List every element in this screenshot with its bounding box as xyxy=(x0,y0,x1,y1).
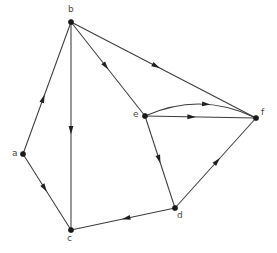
node-label-b: b xyxy=(68,5,74,14)
node-f[interactable] xyxy=(253,115,258,120)
edge-b-c-arrowhead xyxy=(69,126,74,134)
edge-e-f-curved-arrowhead xyxy=(202,102,211,107)
node-a[interactable] xyxy=(20,151,25,156)
edge-e-d-arrowhead xyxy=(156,155,163,164)
edge-b-f xyxy=(71,22,256,118)
node-label-f: f xyxy=(261,108,264,117)
edge-e-f-straight-arrowhead xyxy=(187,114,195,119)
arrowheads-layer xyxy=(39,61,221,221)
edge-e-f-straight xyxy=(145,116,256,118)
edge-a-c xyxy=(23,154,71,230)
edges-layer xyxy=(23,22,256,230)
graph-figure: abcdef xyxy=(0,0,277,253)
edge-b-f-arrowhead xyxy=(151,62,161,70)
node-label-e: e xyxy=(133,110,139,119)
edge-a-c-arrowhead xyxy=(40,183,49,193)
node-c[interactable] xyxy=(68,227,73,232)
node-b[interactable] xyxy=(68,19,73,24)
node-e[interactable] xyxy=(142,113,147,118)
node-label-a: a xyxy=(12,149,18,158)
graph-canvas xyxy=(0,0,277,253)
nodes-layer xyxy=(20,19,258,232)
edge-a-b xyxy=(23,22,71,154)
node-label-c: c xyxy=(67,234,72,243)
node-label-d: d xyxy=(177,211,183,220)
edge-a-b-arrowhead xyxy=(39,94,46,104)
edge-d-c-arrowhead xyxy=(122,215,131,221)
